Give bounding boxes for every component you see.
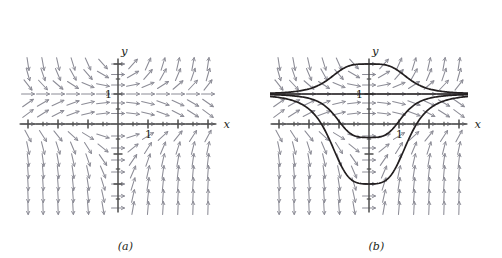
direction-field-plot-a: xy11 xyxy=(0,0,251,258)
field-arrow-shaft xyxy=(275,80,283,90)
field-arrow xyxy=(157,111,169,116)
field-arrow xyxy=(292,68,297,80)
field-arrow xyxy=(161,58,165,70)
field-arrow-shaft xyxy=(440,80,449,90)
field-arrow-shaft xyxy=(98,144,108,152)
field-arrow xyxy=(205,130,211,141)
field-arrow xyxy=(278,154,281,167)
field-arrow-shaft xyxy=(84,70,92,80)
field-arrow xyxy=(158,132,168,141)
field-arrow-shaft xyxy=(438,110,449,117)
field-arrow xyxy=(42,166,45,179)
field-arrow xyxy=(293,190,296,203)
field-arrow xyxy=(428,154,431,167)
field-arrow xyxy=(162,190,165,203)
field-arrow xyxy=(293,178,296,191)
field-arrow xyxy=(192,190,195,203)
field-arrow xyxy=(177,58,181,71)
field-arrow-shaft xyxy=(68,132,78,141)
field-arrow xyxy=(207,202,210,215)
field-arrow xyxy=(398,202,401,215)
field-arrow xyxy=(70,142,75,154)
field-arrow xyxy=(52,100,64,106)
field-arrow xyxy=(207,178,210,191)
field-arrow xyxy=(440,80,449,90)
field-arrow-shaft xyxy=(379,144,389,152)
field-arrow xyxy=(458,190,461,203)
field-arrow-shaft xyxy=(274,99,285,106)
field-arrow xyxy=(378,83,391,87)
field-arrow xyxy=(160,142,165,154)
field-arrow xyxy=(192,178,195,191)
field-arrow xyxy=(308,202,311,215)
field-arrow xyxy=(147,166,151,179)
field-arrow xyxy=(172,111,184,117)
field-arrow xyxy=(82,92,95,95)
field-arrow-shaft xyxy=(193,190,194,203)
field-arrow xyxy=(413,202,416,215)
field-arrow xyxy=(275,80,283,90)
field-arrow xyxy=(396,143,403,154)
field-arrow-shaft xyxy=(144,70,152,80)
field-arrow xyxy=(293,166,296,179)
field-arrow xyxy=(177,190,180,203)
axes xyxy=(271,59,468,213)
field-arrow xyxy=(99,59,108,69)
field-arrow xyxy=(27,142,31,155)
field-arrow xyxy=(278,190,281,203)
field-arrow xyxy=(162,166,165,179)
field-arrow xyxy=(172,92,185,95)
direction-field-plot-b: xy11 xyxy=(251,0,502,258)
field-arrow xyxy=(428,58,432,71)
field-arrow xyxy=(352,178,356,190)
field-arrow xyxy=(55,69,60,81)
field-arrow xyxy=(72,166,75,179)
field-arrow xyxy=(23,99,34,106)
field-arrow-shaft xyxy=(99,59,108,69)
field-arrow xyxy=(127,112,140,115)
field-arrow xyxy=(411,142,416,154)
field-arrow xyxy=(351,166,356,178)
field-arrow xyxy=(425,131,433,141)
field-arrow xyxy=(53,81,63,89)
field-arrow xyxy=(97,71,108,78)
field-arrow xyxy=(87,166,91,179)
field-arrow xyxy=(67,111,79,116)
field-arrow xyxy=(162,202,165,215)
field-arrow xyxy=(67,100,79,105)
field-arrow xyxy=(85,143,92,154)
field-arrow-shaft xyxy=(37,110,48,117)
field-arrow xyxy=(306,69,311,81)
field-arrow xyxy=(127,133,139,137)
field-arrow xyxy=(191,142,195,155)
field-arrow xyxy=(428,190,431,203)
field-arrow xyxy=(427,142,432,154)
field-arrow xyxy=(456,130,462,141)
field-arrow xyxy=(348,112,361,115)
y-axis-tick-label-one: 1 xyxy=(105,88,112,101)
field-arrow xyxy=(129,59,138,69)
field-arrow xyxy=(98,144,108,152)
field-arrow-shaft xyxy=(128,144,138,152)
field-arrow xyxy=(39,80,48,90)
field-arrow-shaft xyxy=(39,80,48,90)
field-arrow-shaft xyxy=(288,110,299,117)
field-arrow xyxy=(348,101,361,104)
x-axis-label: x xyxy=(474,117,481,131)
field-arrow xyxy=(176,142,181,154)
field-arrow xyxy=(177,178,180,191)
field-arrow xyxy=(97,84,110,88)
field-arrow xyxy=(440,131,447,142)
field-arrow xyxy=(157,92,170,95)
field-arrow xyxy=(85,58,91,70)
field-arrow xyxy=(57,58,61,71)
field-arrow xyxy=(86,154,91,166)
field-arrow xyxy=(102,190,106,203)
field-arrow xyxy=(348,84,361,88)
field-arrow xyxy=(443,166,446,179)
field-arrow xyxy=(458,142,462,155)
field-arrow xyxy=(308,190,311,203)
field-arrow xyxy=(278,142,282,155)
y-axis-label: y xyxy=(371,44,379,58)
field-arrow xyxy=(412,58,416,70)
